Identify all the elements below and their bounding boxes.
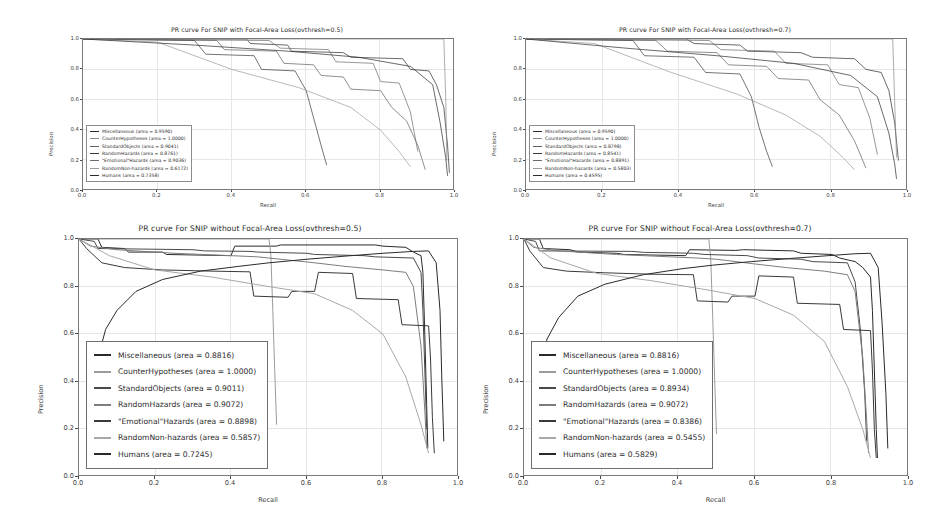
y-axis-label: Precision <box>482 385 490 414</box>
chart-legend: Miscellaneous (area = 0.9590)CounterHypo… <box>529 125 635 182</box>
legend-item[interactable]: "Emotional"Hazards (area = 0.8891) <box>533 157 631 164</box>
x-axis-tick-mark <box>231 190 232 192</box>
legend-item[interactable]: StandardObjects (area = 0.8934) <box>539 380 705 397</box>
legend-line-swatch <box>533 146 542 147</box>
legend-item[interactable]: StandardObjects (area = 0.9011) <box>94 380 260 397</box>
y-axis-tick-mark <box>520 286 523 287</box>
x-axis-tick-label: 0.8 <box>370 479 394 487</box>
legend-label: Humans (area = 0.5829) <box>563 450 657 459</box>
x-axis-tick-label: 0.4 <box>666 192 690 198</box>
legend-label: Humans (area = 0.4595) <box>545 173 602 178</box>
y-axis-tick-mark <box>523 160 525 161</box>
y-axis-tick-mark <box>75 381 78 382</box>
legend-label: "Emotional"Hazards (area = 0.8891) <box>545 158 629 163</box>
legend-line-swatch <box>533 153 542 154</box>
x-axis-tick-mark <box>754 476 755 479</box>
x-axis-tick-label: 0.2 <box>589 192 613 198</box>
legend-item[interactable]: Humans (area = 0.5829) <box>539 446 705 463</box>
x-axis-tick-mark <box>907 190 908 192</box>
legend-line-swatch <box>539 453 556 455</box>
y-axis-tick-label: 0.4 <box>52 377 74 385</box>
legend-item[interactable]: "Emotional"Hazards (area = 0.9036) <box>90 157 188 164</box>
x-axis-tick-mark <box>82 190 83 192</box>
legend-label: RandomHazards (area = 0.9072) <box>563 400 688 409</box>
y-axis-tick-mark <box>75 238 78 239</box>
x-axis-tick-label: 1.0 <box>895 192 919 198</box>
y-axis-tick-label: 0.0 <box>52 472 74 480</box>
legend-label: Miscellaneous (area = 0.8816) <box>563 351 679 360</box>
legend-item[interactable]: RandomNon-hazards (area = 0.6172) <box>90 164 188 171</box>
legend-item[interactable]: RandomNon-hazards (area = 0.5857) <box>94 430 260 447</box>
legend-item[interactable]: CounterHypotheses (area = 1.0000) <box>90 135 188 142</box>
legend-item[interactable]: Miscellaneous (area = 0.8816) <box>539 347 705 364</box>
x-axis-tick-mark <box>754 190 755 192</box>
legend-label: RandomNon-hazards (area = 0.6172) <box>102 166 188 171</box>
legend-line-swatch <box>533 175 542 176</box>
legend-line-swatch <box>539 387 556 389</box>
legend-item[interactable]: Miscellaneous (area = 0.9590) <box>90 128 188 135</box>
legend-item[interactable]: RandomHazards (area = 0.9072) <box>94 397 260 414</box>
x-axis-tick-label: 0.8 <box>819 192 843 198</box>
legend-label: RandomNon-hazards (area = 0.5857) <box>118 433 260 442</box>
legend-item[interactable]: Miscellaneous (area = 0.8816) <box>94 347 260 364</box>
x-axis-tick-mark <box>230 476 231 479</box>
y-axis-tick-mark <box>520 476 523 477</box>
y-axis-tick-mark <box>75 333 78 334</box>
legend-label: Miscellaneous (area = 0.9590) <box>102 129 172 134</box>
legend-line-swatch <box>94 453 111 455</box>
x-axis-tick-mark <box>306 476 307 479</box>
y-axis-tick-label: 1.0 <box>503 35 522 41</box>
y-axis-tick-label: 0.6 <box>52 329 74 337</box>
x-axis-tick-label: 0.6 <box>294 479 318 487</box>
x-axis-tick-label: 0.0 <box>511 479 535 487</box>
x-axis-tick-mark <box>600 476 601 479</box>
legend-line-swatch <box>533 131 542 132</box>
legend-item[interactable]: RandomNon-hazards (area = 0.5455) <box>539 430 705 447</box>
x-axis-label: Recall <box>525 202 907 208</box>
chart-title: PR curve For SNIP with Focal-Area Loss(o… <box>52 26 462 33</box>
legend-item[interactable]: Humans (area = 0.7358) <box>90 172 188 179</box>
y-axis-tick-label: 0.4 <box>60 126 79 132</box>
legend-line-swatch <box>533 168 542 169</box>
x-axis-tick-mark <box>601 190 602 192</box>
legend-line-swatch <box>90 131 99 132</box>
legend-item[interactable]: "Emotional"Hazards (area = 0.8386) <box>539 413 705 430</box>
legend-line-swatch <box>90 153 99 154</box>
legend-line-swatch <box>533 138 542 139</box>
legend-item[interactable]: RandomHazards (area = 0.8541) <box>533 150 631 157</box>
legend-item[interactable]: RandomHazards (area = 0.9072) <box>539 397 705 414</box>
gridline-vertical <box>453 39 454 189</box>
legend-item[interactable]: "Emotional"Hazards (area = 0.8898) <box>94 413 260 430</box>
legend-item[interactable]: Miscellaneous (area = 0.9590) <box>533 128 631 135</box>
legend-line-swatch <box>539 354 556 356</box>
x-axis-tick-label: 0.8 <box>819 479 843 487</box>
legend-item[interactable]: CounterHypotheses (area = 1.0000) <box>539 364 705 381</box>
gridline-vertical <box>457 239 458 475</box>
legend-item[interactable]: StandardObjects (area = 0.9041) <box>90 143 188 150</box>
legend-item[interactable]: Humans (area = 0.4595) <box>533 172 631 179</box>
legend-line-swatch <box>94 387 111 389</box>
x-axis-label: Recall <box>78 496 458 504</box>
legend-line-swatch <box>90 146 99 147</box>
x-axis-tick-mark <box>78 476 79 479</box>
legend-item[interactable]: RandomNon-hazards (area = 0.5803) <box>533 164 631 171</box>
legend-item[interactable]: CounterHypotheses (area = 1.0000) <box>94 364 260 381</box>
legend-item[interactable]: Humans (area = 0.7245) <box>94 446 260 463</box>
legend-item[interactable]: RandomHazards (area = 0.8761) <box>90 150 188 157</box>
legend-line-swatch <box>539 404 556 406</box>
x-axis-tick-mark <box>305 190 306 192</box>
legend-item[interactable]: CounterHypotheses (area = 1.0000) <box>533 135 631 142</box>
legend-label: Humans (area = 0.7358) <box>102 173 159 178</box>
y-axis-tick-mark <box>523 99 525 100</box>
y-axis-tick-mark <box>80 68 82 69</box>
x-axis-tick-label: 0.8 <box>368 192 392 198</box>
legend-label: StandardObjects (area = 0.9041) <box>102 144 178 149</box>
legend-item[interactable]: StandardObjects (area = 0.8798) <box>533 143 631 150</box>
y-axis-tick-label: 0.2 <box>503 157 522 163</box>
y-axis-tick-mark <box>523 38 525 39</box>
x-axis-tick-label: 0.2 <box>142 479 166 487</box>
legend-line-swatch <box>94 354 111 356</box>
x-axis-tick-mark <box>525 190 526 192</box>
legend-line-swatch <box>94 420 111 422</box>
x-axis-tick-mark <box>678 190 679 192</box>
